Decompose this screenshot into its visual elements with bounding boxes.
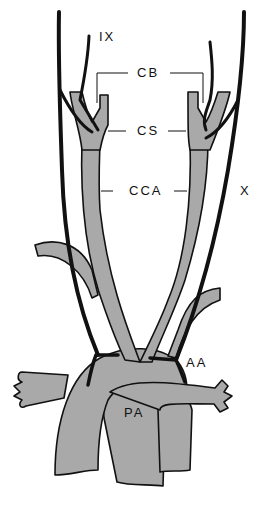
label-ix: IX [99, 30, 115, 43]
label-pa: PA [124, 406, 144, 419]
label-x: X [240, 184, 251, 197]
label-cb: CB [137, 66, 159, 79]
left-carotid-bifurcation [70, 92, 108, 150]
label-cs: CS [137, 124, 159, 137]
right-common-carotid [140, 140, 208, 362]
diagram-canvas [0, 0, 267, 507]
right-vagus-nerve [176, 12, 244, 360]
anatomy-diagram: IX CB CS CCA X AA PA [0, 0, 267, 507]
left-pulmonary-branch [14, 372, 68, 407]
label-cca: CCA [129, 184, 162, 197]
left-common-carotid [82, 140, 140, 362]
label-aa: AA [186, 356, 207, 369]
descending-aorta [158, 397, 192, 473]
